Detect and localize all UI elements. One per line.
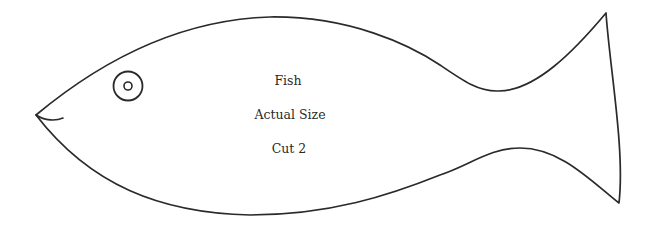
fish-eye-pupil — [124, 82, 132, 90]
fish-body-outline — [36, 13, 620, 215]
pattern-cut-instruction: Cut 2 — [272, 141, 307, 156]
pattern-size-note: Actual Size — [254, 107, 325, 122]
pattern-title: Fish — [274, 73, 301, 88]
fish-eye-outer — [114, 72, 143, 101]
